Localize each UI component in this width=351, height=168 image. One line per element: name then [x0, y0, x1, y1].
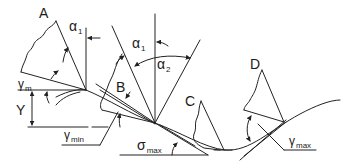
label-alpha1-center: α1	[132, 36, 146, 53]
gamma-symbol: γ	[289, 134, 295, 148]
label-a: A	[39, 6, 48, 20]
sigma-subscript: max	[147, 146, 162, 155]
y-dimension	[28, 92, 108, 127]
sigma-max	[120, 123, 208, 155]
gamma-symbol: γ	[18, 77, 24, 91]
label-alpha1-left: α1	[69, 19, 83, 36]
label-c: C	[185, 94, 195, 108]
label-b: B	[116, 80, 125, 94]
alpha-symbol: α	[69, 18, 77, 34]
label-sigma-max: σmax	[137, 138, 162, 155]
alpha-subscript: 1	[141, 44, 145, 53]
gamma-symbol: γ	[64, 128, 70, 142]
label-gamma-m: γm	[18, 78, 32, 93]
label-d: D	[250, 57, 260, 71]
label-y: Y	[16, 103, 25, 117]
sigma-symbol: σ	[137, 137, 146, 153]
label-alpha2: α2	[157, 57, 171, 74]
alpha-symbol: α	[157, 56, 165, 72]
alpha-subscript: 1	[78, 27, 82, 36]
label-gamma-max: γmax	[289, 135, 311, 150]
gamma-subscript: m	[25, 84, 32, 93]
gamma-subscript: max	[296, 141, 311, 150]
gamma-subscript: min	[71, 135, 84, 144]
alpha-symbol: α	[132, 35, 140, 51]
alpha-subscript: 2	[166, 65, 170, 74]
label-gamma-min: γmin	[64, 129, 84, 144]
